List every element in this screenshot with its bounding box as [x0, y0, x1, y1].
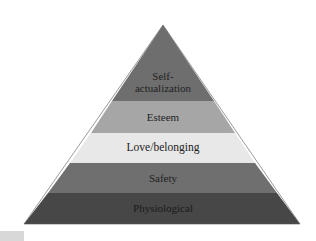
- label-love-belonging: Love/belonging: [63, 141, 263, 153]
- corner-mark: [0, 231, 24, 241]
- label-line2: actualization: [63, 82, 263, 94]
- label-self-actualization: Self- actualization: [63, 70, 263, 94]
- label-esteem: Esteem: [63, 111, 263, 123]
- label-line1: Self-: [63, 70, 263, 82]
- label-safety: Safety: [63, 172, 263, 184]
- label-physiological: Physiological: [63, 202, 263, 214]
